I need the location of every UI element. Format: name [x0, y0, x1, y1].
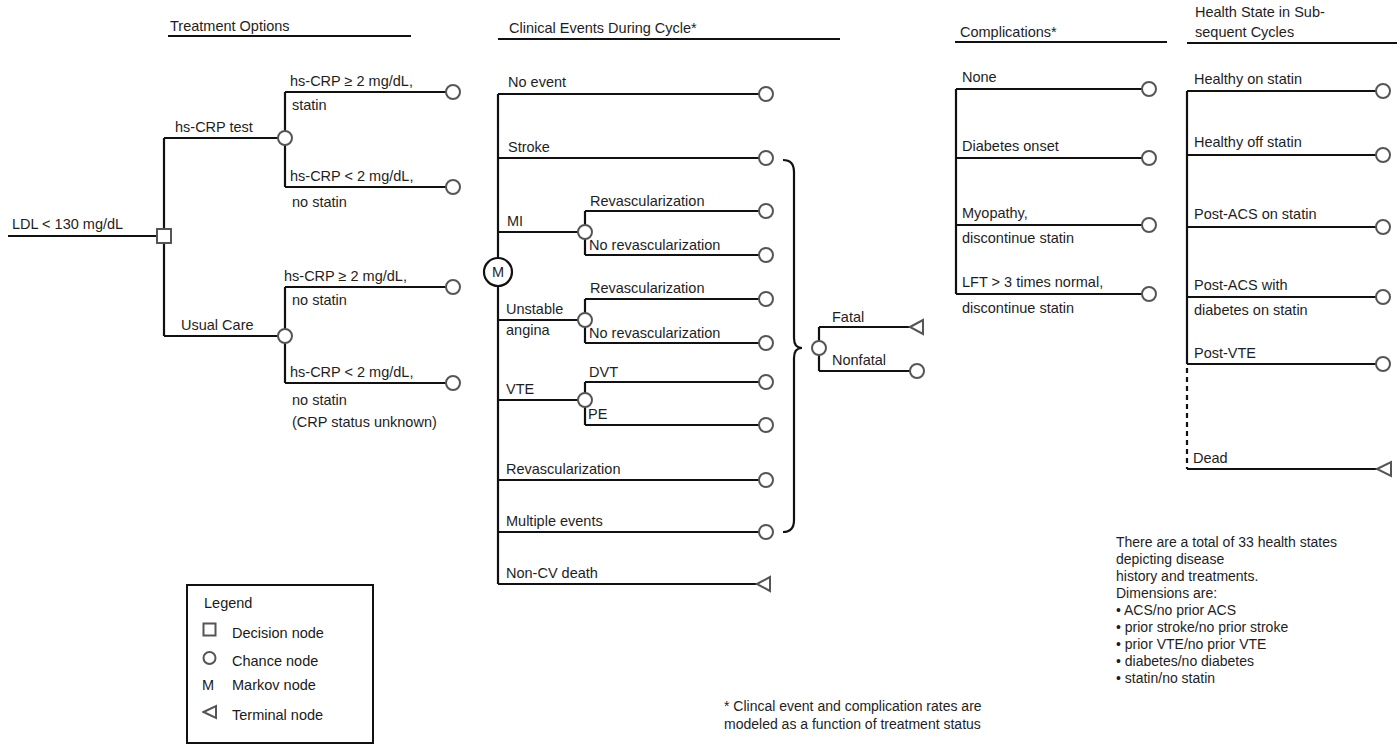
- bullet-item: • prior VTE/no prior VTE: [1116, 636, 1337, 653]
- state-post-acs-on-statin: Post-ACS on statin: [1194, 206, 1317, 223]
- complication-lft-2: discontinue statin: [962, 300, 1074, 317]
- mi-no-revascularization: No revascularization: [589, 237, 720, 254]
- chance-node-icon: [278, 329, 292, 343]
- event-multiple-events: Multiple events: [506, 513, 603, 530]
- square-icon: [202, 622, 232, 642]
- ua-no-revascularization: No revascularization: [589, 325, 720, 342]
- event-revascularization: Revascularization: [506, 461, 620, 478]
- event-mi: MI: [507, 213, 523, 230]
- terminal-node-icon: [757, 577, 770, 591]
- branch-uc-crp-low-1: hs-CRP < 2 mg/dL,: [290, 364, 413, 381]
- markov-m-icon: M: [202, 677, 232, 694]
- footnote-line-1: * Clincal event and complication rates a…: [724, 698, 982, 715]
- branch-crp-low-nostatin-1: hs-CRP < 2 mg/dL,: [290, 168, 413, 185]
- complication-myopathy-2: discontinue statin: [962, 230, 1074, 247]
- root-label: LDL < 130 mg/dL: [12, 216, 123, 233]
- legend-item-markov: MMarkov node: [202, 677, 316, 694]
- health-state-note: There are a total of 33 health states de…: [1116, 534, 1337, 687]
- event-non-cv-death: Non-CV death: [506, 565, 598, 582]
- outcome-fatal: Fatal: [832, 309, 864, 326]
- event-unstable-angina-2: angina: [506, 322, 550, 339]
- branch-crp-low-nostatin-2: no statin: [292, 194, 347, 211]
- complication-none: None: [962, 69, 997, 86]
- state-post-acs-diabetes-1: Post-ACS with: [1194, 277, 1287, 294]
- chance-node-icon: [278, 131, 292, 145]
- vte-dvt: DVT: [589, 364, 618, 381]
- mi-revascularization: Revascularization: [590, 193, 704, 210]
- header-complications: Complications*: [960, 24, 1057, 41]
- legend-item-chance: Chance node: [202, 650, 318, 670]
- markov-node-label: M: [492, 264, 504, 281]
- branch-crp-high-statin-1: hs-CRP ≥ 2 mg/dL,: [290, 73, 413, 90]
- header-health-state-2: sequent Cycles: [1195, 24, 1294, 41]
- bullet-item: • statin/no statin: [1116, 670, 1337, 687]
- bullet-item: • prior stroke/no prior stroke: [1116, 619, 1337, 636]
- legend-item-decision: Decision node: [202, 622, 324, 642]
- ua-revascularization: Revascularization: [590, 280, 704, 297]
- usual-care-label: Usual Care: [181, 317, 254, 334]
- legend-box: Legend Decision node Chance node MMarkov…: [186, 584, 374, 744]
- header-clinical-events: Clinical Events During Cycle*: [509, 20, 697, 37]
- bullet-item: • diabetes/no diabetes: [1116, 653, 1337, 670]
- header-treatment-options: Treatment Options: [170, 18, 290, 35]
- state-healthy-on-statin: Healthy on statin: [1194, 71, 1302, 88]
- branch-uc-crp-low-3: (CRP status unknown): [292, 414, 437, 431]
- state-post-vte: Post-VTE: [1194, 345, 1256, 362]
- legend-item-terminal: Terminal node: [202, 704, 323, 724]
- footnote-line-2: modeled as a function of treatment statu…: [724, 716, 981, 733]
- branch-uc-crp-low-2: no statin: [292, 392, 347, 409]
- triangle-icon: [202, 704, 232, 724]
- event-unstable-angina-1: Unstable: [506, 301, 563, 318]
- state-dead: Dead: [1193, 450, 1228, 467]
- bullet-item: • ACS/no prior ACS: [1116, 602, 1337, 619]
- circle-icon: [202, 650, 232, 670]
- branch-uc-crp-high-1: hs-CRP ≥ 2 mg/dL,: [284, 268, 407, 285]
- vte-pe: PE: [588, 406, 607, 423]
- complication-lft-1: LFT > 3 times normal,: [962, 274, 1103, 291]
- header-health-state-1: Health State in Sub-: [1195, 4, 1325, 21]
- branch-uc-crp-high-2: no statin: [292, 292, 347, 309]
- event-vte: VTE: [506, 381, 534, 398]
- event-stroke: Stroke: [508, 139, 550, 156]
- outcome-nonfatal: Nonfatal: [832, 352, 886, 369]
- complication-myopathy-1: Myopathy,: [962, 205, 1028, 222]
- hs-crp-test-label: hs-CRP test: [175, 119, 253, 136]
- legend-title: Legend: [204, 595, 252, 612]
- branch-crp-high-statin-2: statin: [292, 97, 327, 114]
- state-post-acs-diabetes-2: diabetes on statin: [1194, 302, 1308, 319]
- event-no-event: No event: [508, 74, 566, 91]
- state-healthy-off-statin: Healthy off statin: [1194, 134, 1302, 151]
- decision-node-icon: [157, 229, 171, 243]
- complication-diabetes: Diabetes onset: [962, 138, 1059, 155]
